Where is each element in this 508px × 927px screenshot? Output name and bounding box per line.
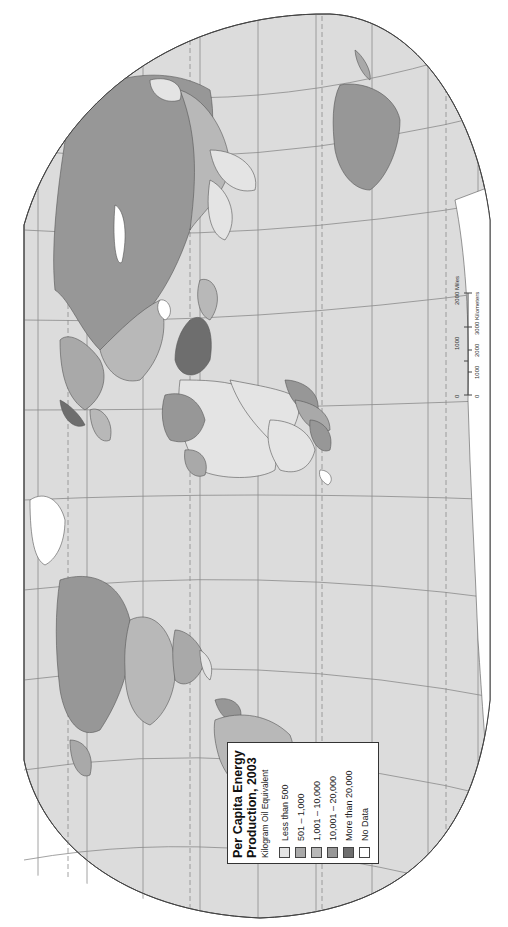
- legend-item: Less than 500: [277, 748, 292, 858]
- legend-label: More than 20,000: [344, 770, 354, 841]
- legend-item: 10,001 – 20,000: [325, 748, 340, 858]
- legend-swatch-501-1000: [295, 847, 306, 858]
- scale-bar: 0 1000 2000 Miles 0 1000 2000 3000 Kilom…: [438, 255, 498, 405]
- scale-miles-1000: 1000: [454, 337, 460, 350]
- scale-bar-graphic: [438, 255, 498, 405]
- scale-bar-inner: 0 1000 2000 Miles 0 1000 2000 3000 Kilom…: [438, 255, 498, 405]
- legend-label: 501 – 1,000: [296, 793, 306, 841]
- legend-label: 1,001 – 10,000: [312, 781, 322, 841]
- legend-item: 1,001 – 10,000: [309, 748, 324, 858]
- legend-label: 10,001 – 20,000: [328, 776, 338, 841]
- scale-km-1000: 1000: [474, 366, 480, 379]
- scale-km-0: 0: [474, 395, 480, 398]
- legend-swatch-1001-10000: [311, 847, 322, 858]
- legend-subtitle: Kilogram Oil Equivalent: [260, 748, 270, 858]
- legend-item: 501 – 1,000: [293, 748, 308, 858]
- legend-swatch-10001-20000: [327, 847, 338, 858]
- legend-label: No Data: [360, 808, 370, 841]
- legend-box: Per Capita Energy Production, 2003 Kilog…: [227, 742, 379, 864]
- legend-swatch-less-than-500: [279, 847, 290, 858]
- scale-km-3000: 3000 Kilometers: [474, 292, 480, 335]
- legend-title-line2: Production, 2003: [245, 748, 259, 858]
- legend-item: No Data: [357, 748, 372, 858]
- scale-miles-0: 0: [454, 395, 460, 398]
- legend: Per Capita Energy Production, 2003 Kilog…: [227, 742, 379, 864]
- scale-km-2000: 2000: [474, 344, 480, 357]
- legend-title-line1: Per Capita Energy: [231, 748, 245, 858]
- legend-swatch-more-than-20000: [343, 847, 354, 858]
- legend-swatch-no-data: [359, 847, 370, 858]
- legend-label: Less than 500: [280, 784, 290, 841]
- legend-item: More than 20,000: [341, 748, 356, 858]
- scale-miles-2000: 2000 Miles: [454, 276, 460, 305]
